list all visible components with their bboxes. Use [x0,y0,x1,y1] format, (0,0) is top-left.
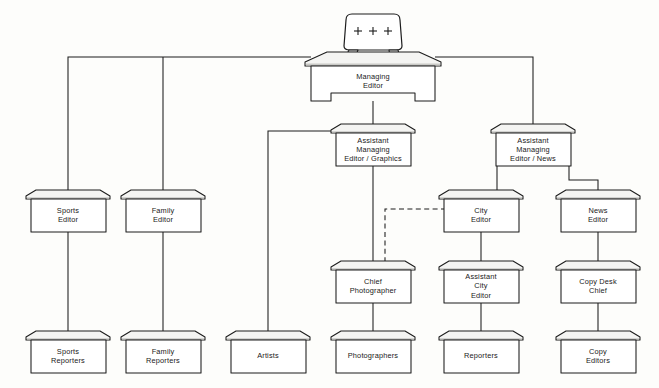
city-editor-label-line-0: City [474,206,487,215]
node-copy-editors[interactable]: Copy Editors [556,331,640,373]
sports-reporters-label-line-1: Reporters [51,356,85,365]
chief-photographer-desk-top-shade [332,268,414,269]
sports-editor-label-line-1: Editor [58,215,79,224]
asst-me-news-label-line-0: Assistant [517,136,548,145]
asst-me-graphics-label-line-2: Editor / Graphics [344,154,402,163]
artists-label-line-0: Artists [257,351,279,360]
family-reporters-label-line-1: Reporters [146,356,180,365]
asst-me-graphics-label-line-0: Assistant [357,136,388,145]
copy-desk-chief-label-line-1: Chief [589,286,608,295]
node-sports-reporters[interactable]: Sports Reporters [26,331,110,373]
node-assistant-city-editor[interactable]: Assistant City Editor [439,261,523,303]
reporters-desk-top-shade [440,338,522,339]
family-editor-label-line-0: Family [152,206,175,215]
sports-reporters-label-line-0: Sports [57,347,79,356]
edge-asst-me-news-to-news-editor [569,166,598,193]
node-photographers[interactable]: Photographers [331,331,415,373]
org-chart-canvas: Managing Editor Assistant Managing Edito… [0,0,659,388]
node-family-reporters[interactable]: Family Reporters [121,331,205,373]
family-editor-desk-top-shade [122,197,204,198]
asst-me-news-label-line-1: Managing [516,145,550,154]
managing-editor-desk-top-shade [306,64,440,66]
reporters-label-line-0: Reporters [464,351,498,360]
edge-managing-editor-to-asst-me-news [435,57,533,127]
managing-editor-label-line-1: Editor [363,81,384,90]
sports-editor-desk-top-shade [27,197,109,198]
sports-reporters-desk-top-shade [27,338,109,339]
edge-city-editor-to-chief-photographer-dashed [385,209,446,263]
news-editor-label-line-0: News [588,206,607,215]
asst-city-editor-label-line-2: Editor [471,291,492,300]
photographers-label-line-0: Photographers [348,351,399,360]
org-chart-drawing: Managing Editor Assistant Managing Edito… [0,0,659,388]
asst-city-editor-label-line-1: City [474,281,487,290]
node-asst-managing-editor-news[interactable]: Assistant Managing Editor / News [491,124,575,166]
asst-me-news-label-line-2: Editor / News [510,154,556,163]
asst-me-graphics-label-line-1: Managing [356,145,390,154]
photographers-desk-top-shade [332,338,414,339]
family-reporters-desk-top-shade [122,338,204,339]
asst-city-editor-desk-top-shade [440,268,522,269]
chief-photographer-label-line-1: Photographer [350,286,397,295]
node-reporters[interactable]: Reporters [439,331,523,373]
news-editor-desk-top-shade [557,197,639,198]
chief-photographer-label-line-0: Chief [364,277,383,286]
asst-me-graphics-desk-top-shade [332,131,414,132]
edge-managing-editor-to-left-bus [68,57,311,193]
node-copy-desk-chief[interactable]: Copy Desk Chief [556,261,640,303]
family-editor-label-line-1: Editor [153,215,174,224]
node-city-editor[interactable]: City Editor [439,190,523,232]
node-news-editor[interactable]: News Editor [556,190,640,232]
copy-editors-label-line-0: Copy [589,347,607,356]
asst-city-editor-label-line-0: Assistant [465,272,496,281]
node-chief-photographer[interactable]: Chief Photographer [331,261,415,303]
node-artists[interactable]: Artists [226,331,310,373]
copy-editors-label-line-1: Editors [586,356,610,365]
copy-desk-chief-label-line-0: Copy Desk [579,277,617,286]
city-editor-label-line-1: Editor [471,215,492,224]
family-reporters-label-line-0: Family [152,347,175,356]
city-editor-desk-top-shade [440,197,522,198]
node-asst-managing-editor-graphics[interactable]: Assistant Managing Editor / Graphics [331,124,415,166]
managing-editor-label-line-0: Managing [356,72,390,81]
news-editor-label-line-1: Editor [588,215,609,224]
sports-editor-label-line-0: Sports [57,206,79,215]
copy-desk-chief-desk-top-shade [557,268,639,269]
artists-desk-top-shade [227,338,309,339]
node-managing-editor[interactable]: Managing Editor [305,14,441,101]
node-sports-editor[interactable]: Sports Editor [26,190,110,232]
edge-asst-me-graphics-to-artists [268,131,337,334]
asst-me-news-desk-top-shade [492,131,574,132]
copy-editors-desk-top-shade [557,338,639,339]
node-family-editor[interactable]: Family Editor [121,190,205,232]
